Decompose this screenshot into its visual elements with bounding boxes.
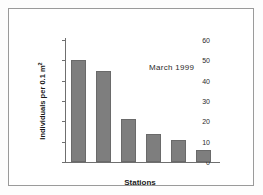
bar xyxy=(96,71,111,163)
y-tick-label: 10 xyxy=(202,138,210,145)
y-tick-mark xyxy=(62,121,66,122)
y-tick-mark xyxy=(62,101,66,102)
figure-frame: Individuals per 0.1 m2 0102030405060 123… xyxy=(8,8,254,186)
x-axis-line xyxy=(65,162,220,163)
y-tick-mark xyxy=(62,60,66,61)
y-tick-label: 20 xyxy=(202,118,210,125)
y-tick-label: 40 xyxy=(202,77,210,84)
x-axis-title: Stations xyxy=(124,179,156,187)
y-axis-title-text: Individuals per 0.1 m xyxy=(38,65,47,139)
y-tick-label: 60 xyxy=(202,37,210,44)
plot-area: 0102030405060 123457 xyxy=(66,40,216,162)
y-tick-mark xyxy=(62,142,66,143)
bar xyxy=(171,140,186,162)
chart-annotation-march-1999: March 1999 xyxy=(149,64,194,72)
bar xyxy=(196,150,211,162)
y-tick-mark xyxy=(62,40,66,41)
y-tick-label: 30 xyxy=(202,98,210,105)
bar xyxy=(71,60,86,162)
y-tick-label: 50 xyxy=(202,57,210,64)
y-tick-mark xyxy=(62,81,66,82)
y-axis-title-superscript: 2 xyxy=(37,62,43,65)
y-axis-title: Individuals per 0.1 m2 xyxy=(38,62,47,139)
bar xyxy=(146,134,161,162)
figure: Individuals per 0.1 m2 0102030405060 123… xyxy=(0,0,263,195)
y-tick-mark xyxy=(62,162,66,163)
bar xyxy=(121,119,136,162)
